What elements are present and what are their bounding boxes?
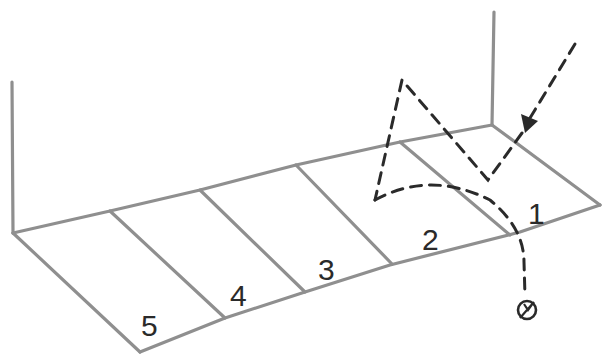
zone-label-4: 4 [230,279,247,312]
zone-label-3: 3 [318,253,335,286]
zone-label-1: 1 [528,197,545,230]
divider-5-4 [110,211,225,318]
divider-4-3 [200,190,305,292]
zone-label-5: 5 [141,309,158,342]
right-wall-edge [492,12,494,125]
left-edge [13,233,140,352]
court-diagram: 1 2 3 4 5 [0,0,611,358]
back-edge [13,125,492,233]
left-wall-edge [12,82,13,233]
divider-3-2 [296,165,392,264]
trajectory-exit [375,185,525,296]
right-edge [492,125,600,205]
end-marker-icon [518,301,536,319]
trajectory-incoming [530,44,575,118]
zone-label-2: 2 [422,223,439,256]
